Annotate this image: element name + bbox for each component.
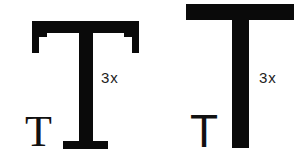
serif-t-left-step bbox=[39, 33, 47, 37]
serif-panel: 3x T bbox=[0, 0, 154, 161]
serif-t-stem bbox=[79, 21, 93, 145]
small-serif-t: T bbox=[25, 110, 52, 154]
sans-serif-panel: 3x T bbox=[154, 0, 308, 161]
serif-t-right-step bbox=[124, 33, 132, 37]
sans-t-top-bar bbox=[186, 4, 294, 20]
serif-t-foot bbox=[63, 141, 108, 149]
scale-label: 3x bbox=[101, 70, 119, 85]
serif-t-left-serif bbox=[32, 33, 39, 53]
serif-t-right-serif bbox=[132, 33, 139, 53]
scale-label: 3x bbox=[259, 70, 277, 85]
small-sans-t: T bbox=[190, 108, 218, 154]
sans-t-stem bbox=[232, 20, 249, 148]
